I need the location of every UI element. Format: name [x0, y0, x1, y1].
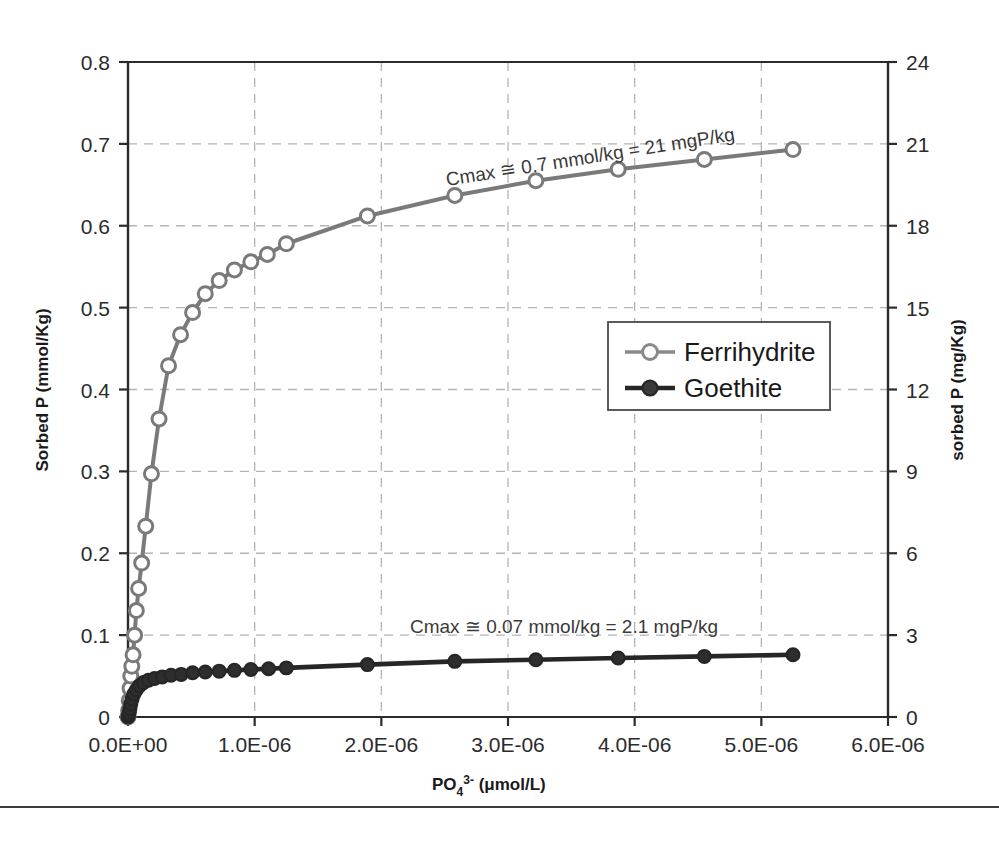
data-point: [280, 661, 293, 674]
data-point: [529, 653, 542, 666]
legend-label-goethite: Goethite: [684, 373, 782, 403]
data-point: [139, 519, 153, 533]
secondary-y-axis-tick-labels: 03691215182124: [906, 51, 930, 729]
x-tick-label: 0.0E+00: [89, 733, 168, 756]
y-tick-label: 0.2: [81, 542, 110, 565]
y2-tick-label: 15: [906, 297, 929, 320]
data-point: [186, 306, 200, 320]
data-point: [186, 666, 199, 679]
y2-tick-label: 6: [906, 542, 918, 565]
legend-label-ferrihydrite: Ferrihydrite: [684, 337, 815, 367]
y-tick-label: 0.4: [81, 379, 111, 402]
y-tick-label: 0.3: [81, 460, 110, 483]
open-circle-icon: [643, 345, 658, 360]
page-bottom-rule: [0, 806, 999, 808]
data-point: [786, 143, 800, 157]
y-axis-title: Sorbed P (mmol/Kg): [33, 308, 52, 471]
x-axis-title: PO43- (μmol/L): [432, 773, 546, 799]
data-point: [174, 328, 188, 342]
data-point: [126, 648, 140, 662]
data-point: [162, 359, 176, 373]
x-tick-label: 2.0E-06: [345, 733, 419, 756]
data-point: [198, 287, 212, 301]
y-tick-label: 0.8: [81, 51, 110, 74]
x-tick-label: 3.0E-06: [471, 733, 545, 756]
y-tick-label: 0.7: [81, 133, 110, 156]
data-point: [213, 665, 226, 678]
data-point: [128, 628, 142, 642]
data-point: [144, 467, 158, 481]
x-axis-tick-labels: 0.0E+001.0E-062.0E-063.0E-064.0E-065.0E-…: [89, 733, 925, 756]
data-point: [448, 655, 461, 668]
data-point: [787, 648, 800, 661]
data-point: [361, 658, 374, 671]
data-point: [448, 188, 462, 202]
data-point: [244, 255, 258, 269]
chart-legend[interactable]: Ferrihydrite Goethite: [608, 322, 830, 410]
y2-tick-label: 21: [906, 133, 929, 156]
x-tick-label: 5.0E-06: [725, 733, 799, 756]
x-tick-label: 4.0E-06: [598, 733, 672, 756]
y2-tick-label: 3: [906, 624, 918, 647]
data-point: [228, 664, 241, 677]
y-tick-label: 0.5: [81, 297, 110, 320]
y-tick-label: 0.6: [81, 215, 110, 238]
data-point: [135, 556, 149, 570]
annotation-cmax-goethite: Cmax ≅ 0.07 mmol/kg = 2.1 mgP/kg: [410, 616, 718, 637]
x-axis-title-base: PO: [432, 775, 457, 794]
x-tick-label: 1.0E-06: [218, 733, 292, 756]
data-point: [152, 412, 166, 426]
data-point: [279, 237, 293, 251]
filled-circle-icon: [643, 381, 658, 396]
x-axis-title-subscript: 4: [457, 785, 464, 799]
chart-figure: 0.0E+001.0E-062.0E-063.0E-064.0E-065.0E-…: [0, 0, 999, 847]
y-axis-tick-labels: 00.10.20.30.40.50.60.70.8: [81, 51, 111, 729]
data-point: [697, 152, 711, 166]
data-point: [132, 581, 146, 595]
x-axis-title-superscript: 3-: [463, 773, 474, 787]
x-axis-title-units: (μmol/L): [474, 775, 546, 794]
y2-tick-label: 12: [906, 379, 929, 402]
data-point: [262, 662, 275, 675]
data-point: [129, 604, 143, 618]
y-tick-label: 0.1: [81, 624, 110, 647]
sorption-isotherm-chart: 0.0E+001.0E-062.0E-063.0E-064.0E-065.0E-…: [0, 0, 999, 847]
data-point: [244, 663, 257, 676]
data-point: [212, 274, 226, 288]
data-point: [260, 247, 274, 261]
x-tick-label: 6.0E-06: [851, 733, 925, 756]
data-point: [612, 652, 625, 665]
y2-tick-label: 18: [906, 215, 929, 238]
data-point: [698, 650, 711, 663]
data-point: [199, 666, 212, 679]
y2-tick-label: 9: [906, 460, 918, 483]
y-tick-label: 0: [98, 706, 110, 729]
y2-tick-label: 24: [906, 51, 930, 74]
data-point: [611, 162, 625, 176]
y2-tick-label: 0: [906, 706, 918, 729]
data-point: [227, 263, 241, 277]
secondary-y-axis-title: sorbed P (mg/Kg): [948, 319, 967, 460]
data-point: [360, 209, 374, 223]
